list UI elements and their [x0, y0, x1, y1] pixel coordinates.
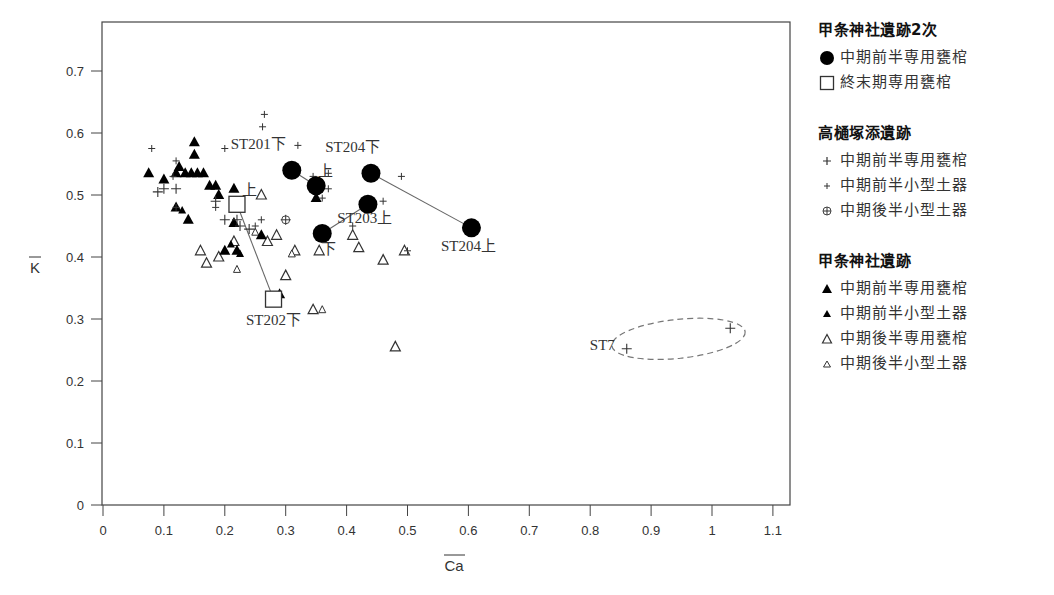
plus-small-marker [221, 145, 228, 152]
plus-small-marker [259, 123, 266, 130]
y-tick-label: 0.5 [66, 188, 84, 203]
legend-item: 中期前半専用甕棺 [818, 276, 1048, 301]
point-annotation: 上 [242, 182, 257, 198]
plus-small-marker [148, 145, 155, 152]
x-tick-label: 0.2 [216, 523, 234, 538]
filled-circle-icon [818, 50, 836, 66]
plus-small-marker [252, 223, 259, 230]
open-triangle-marker [256, 190, 266, 200]
legend: 甲条神社遺跡2次 中期前半専用甕棺 終末期専用甕棺 高樋塚添遺跡 中期前半専用甕… [818, 18, 1048, 402]
y-tick-label: 0.4 [66, 250, 84, 265]
connector-line [237, 204, 274, 299]
open-triangle-marker [354, 242, 364, 252]
point-annotation: ST201下 [231, 136, 286, 152]
legend-item: 中期後半専用甕棺 [818, 326, 1048, 351]
legend-item: 中期前半小型土器 [818, 173, 1048, 198]
x-tick-label: 0.3 [277, 523, 295, 538]
x-tick-label: 0.5 [398, 523, 416, 538]
point-annotation: ST202下 [246, 312, 301, 328]
point-annotation: ST7 [590, 337, 616, 353]
point-annotation: ST204上 [441, 238, 496, 254]
x-tick-label: 0.9 [642, 523, 660, 538]
x-tick-label: 0.4 [338, 523, 356, 538]
point-annotation: ST203上 [337, 210, 392, 226]
open-triangle-marker [281, 270, 291, 280]
legend-item: 中期後半小型土器 [818, 351, 1048, 376]
open-triangle-marker [202, 258, 212, 268]
plus-large-marker [725, 323, 735, 333]
x-tick-label: 0.6 [459, 523, 477, 538]
y-tick-label: 0.2 [66, 374, 84, 389]
legend-group-title: 甲条神社遺跡2次 [818, 18, 1048, 39]
x-axis-label: Ca [444, 557, 464, 574]
open-square-icon [818, 75, 836, 91]
filled-triangle-marker [174, 161, 185, 171]
y-tick-label: 0.3 [66, 312, 84, 327]
open-triangle-small-marker [319, 306, 326, 313]
plus-small-marker [380, 198, 387, 205]
plus-icon [818, 153, 836, 169]
x-tick-label: 0.8 [581, 523, 599, 538]
legend-item: 中期前半小型土器 [818, 301, 1048, 326]
point-annotation: ST204下 [325, 139, 380, 155]
legend-item: 中期前半専用甕棺 [818, 148, 1048, 173]
open-triangle-small-marker [233, 265, 240, 272]
plus-small-marker [258, 216, 265, 223]
legend-group-takatsuka: 高樋塚添遺跡 中期前半専用甕棺 中期前半小型土器 中期後半小型土器 [818, 121, 1048, 223]
plus-large-marker [220, 215, 230, 225]
filled-circle-marker [361, 164, 380, 183]
filled-triangle-marker [189, 136, 200, 146]
filled-triangle-icon [818, 281, 836, 297]
legend-item: 中期前半専用甕棺 [818, 45, 1048, 70]
filled-triangle-marker [213, 189, 224, 199]
open-square-marker [229, 196, 245, 212]
y-tick-label: 0 [77, 498, 84, 513]
filled-triangle-marker [143, 167, 154, 177]
y-axis-label: K [30, 259, 40, 276]
legend-item: 終末期専用甕棺 [818, 70, 1048, 95]
filled-triangle-marker [189, 149, 200, 159]
filled-triangle-marker [228, 217, 239, 227]
small-filled-triangle-icon [818, 306, 836, 322]
open-triangle-marker [308, 304, 318, 314]
filled-circle-marker [462, 218, 481, 237]
filled-triangle-marker [228, 183, 239, 193]
open-triangle-marker [195, 245, 205, 255]
legend-group-title: 甲条神社遺跡 [818, 249, 1048, 270]
y-tick-label: 0.7 [66, 64, 84, 79]
small-plus-icon [818, 178, 836, 194]
plus-circle-marker [281, 215, 291, 225]
legend-group-kojo: 甲条神社遺跡 中期前半専用甕棺 中期前半小型土器 中期後半専用甕棺 中期後半小型… [818, 249, 1048, 376]
point-annotation: 上 [318, 163, 333, 179]
plus-large-marker [171, 184, 181, 194]
scatter-plot: 00.10.20.30.40.50.60.70.80.911.100.10.20… [0, 0, 800, 595]
plus-small-marker [325, 185, 332, 192]
x-tick-label: 0.1 [155, 523, 173, 538]
small-open-triangle-icon [818, 356, 836, 372]
x-tick-label: 0 [99, 523, 106, 538]
open-triangle-marker [390, 341, 400, 351]
filled-triangle-marker [183, 214, 194, 224]
legend-group-kojo-2: 甲条神社遺跡2次 中期前半専用甕棺 終末期専用甕棺 [818, 18, 1048, 95]
point-annotation: 下 [321, 241, 336, 257]
plus-small-marker [261, 111, 268, 118]
open-square-marker [266, 291, 282, 307]
y-tick-label: 0.6 [66, 126, 84, 141]
plus-large-marker [622, 344, 632, 354]
x-tick-label: 1.1 [764, 523, 782, 538]
plus-circle-icon [818, 203, 836, 219]
plus-small-marker [294, 142, 301, 149]
legend-item: 中期後半小型土器 [818, 198, 1048, 223]
filled-triangle-marker [158, 174, 169, 184]
plus-small-marker [398, 173, 405, 180]
legend-group-title: 高樋塚添遺跡 [818, 121, 1048, 142]
open-triangle-marker [272, 230, 282, 240]
filled-circle-marker [282, 161, 301, 180]
open-triangle-marker [348, 230, 358, 240]
x-tick-label: 1 [708, 523, 715, 538]
x-tick-label: 0.7 [520, 523, 538, 538]
st7-ellipse [610, 312, 747, 365]
y-tick-label: 0.1 [66, 436, 84, 451]
open-triangle-icon [818, 331, 836, 347]
open-triangle-marker [378, 255, 388, 265]
